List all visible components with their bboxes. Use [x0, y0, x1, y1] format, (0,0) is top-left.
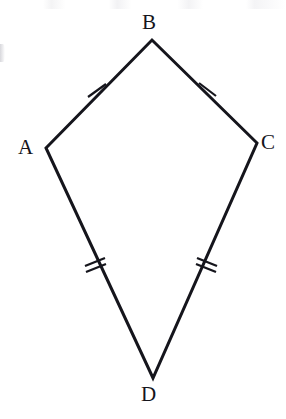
kite-outline-path [46, 40, 257, 378]
vertex-label-c: C [261, 132, 275, 153]
kite-diagram [0, 0, 286, 419]
vertex-label-b: B [142, 12, 156, 33]
figure-canvas: A B C D [0, 0, 286, 419]
vertex-label-d: D [141, 384, 156, 405]
vertex-label-a: A [18, 137, 33, 158]
